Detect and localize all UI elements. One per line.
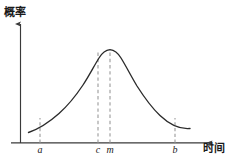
figure-container: 概率 时间 a c m b xyxy=(0,0,247,161)
tick-label-m: m xyxy=(103,145,117,155)
tick-label-b: b xyxy=(168,145,182,155)
bell-curve-path xyxy=(29,50,191,133)
bell-curve-chart xyxy=(0,0,247,161)
y-axis-title: 概率 xyxy=(4,7,26,18)
x-axis-title: 时间 xyxy=(203,143,225,154)
tick-label-a: a xyxy=(33,145,47,155)
